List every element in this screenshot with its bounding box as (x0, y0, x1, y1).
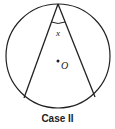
chord-left (24, 4, 58, 98)
inscribed-angle-diagram: x O (0, 0, 115, 115)
chord-right (58, 4, 95, 97)
center-label: O (61, 60, 68, 71)
angle-arc (52, 22, 66, 24)
center-dot (57, 60, 60, 63)
circle (6, 4, 110, 108)
angle-label: x (55, 28, 60, 38)
caption: Case II (0, 113, 115, 124)
